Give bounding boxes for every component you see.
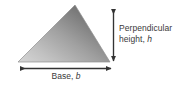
diagram-canvas — [0, 0, 192, 87]
triangle-area-diagram: Perpendicular height, h Base, b — [0, 0, 192, 87]
triangle-shape — [18, 5, 110, 62]
